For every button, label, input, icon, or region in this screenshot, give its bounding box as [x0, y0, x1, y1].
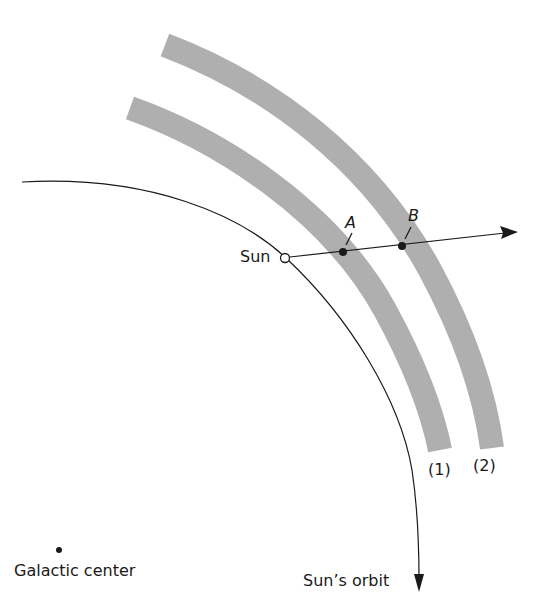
band-2-label: (2)	[473, 458, 496, 474]
sun-orbit-curve	[22, 181, 419, 580]
sun-orbit-label: Sun’s orbit	[303, 573, 389, 589]
diagram-canvas	[0, 0, 537, 610]
band-1-label: (1)	[428, 462, 451, 478]
line-of-sight-arrowhead-icon	[500, 226, 518, 239]
sun-marker-icon	[281, 254, 290, 263]
point-a-marker-icon	[339, 248, 347, 256]
galactic-center-label: Galactic center	[14, 563, 135, 579]
point-b-label: B	[408, 208, 419, 224]
orbit-arrowhead-icon	[414, 574, 424, 592]
galactic-center-marker-icon	[56, 547, 62, 553]
point-a-label: A	[345, 215, 356, 231]
sun-label: Sun	[240, 249, 270, 265]
point-b-marker-icon	[398, 242, 406, 250]
spiral-arm-band-1	[130, 108, 440, 450]
